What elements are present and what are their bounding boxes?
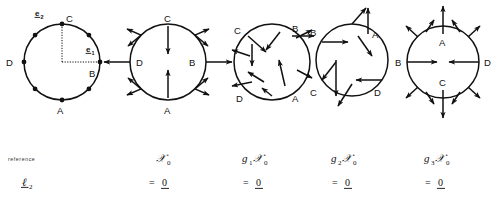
caption-x0-sub: 0 <box>167 159 171 167</box>
panel-g3x0: A B C D <box>395 6 491 118</box>
g1-arrow-A <box>279 60 285 86</box>
caption-row: reference ℓ 2 𝒳 0 = 0 g 1 𝒳 0 = 0 g 2 � <box>8 152 450 191</box>
node-DC <box>33 33 38 38</box>
caption-g1-zero: 0 <box>256 177 261 188</box>
panel-reference: C B A D e 2 e 1 <box>6 9 102 116</box>
caption-g2-var-sub: 0 <box>353 159 357 167</box>
arrow-diag-se-1 <box>195 89 209 95</box>
g1x0-vertex-label-D: D <box>236 93 243 104</box>
figure-container: C B A D e 2 e 1 C B <box>0 0 500 203</box>
caption-g1x0: g 1 𝒳 0 = 0 <box>242 152 268 188</box>
g3x0-vertex-label-D: D <box>484 57 491 68</box>
basis-e1-letter: e <box>86 45 91 54</box>
g1x0-vertex-label-B: B <box>292 23 298 34</box>
g3-arrow-nw1 <box>406 26 418 37</box>
caption-x0: 𝒳 0 = 0 <box>149 152 171 188</box>
caption-g2-letter: g <box>331 152 337 164</box>
g2-arrow-C2 <box>338 84 352 106</box>
caption-g2-zero: 0 <box>345 177 350 188</box>
basis-e2-sub: 2 <box>41 14 44 20</box>
g2-arrow-inner2 <box>322 62 336 80</box>
g2x0-vertex-label-D: D <box>374 87 381 98</box>
caption-reference: reference ℓ 2 <box>8 156 35 191</box>
g3-arrow-sw2 <box>426 92 434 104</box>
g2x0-vertex-label-C: C <box>310 87 317 98</box>
g3-arrow-sw1 <box>406 87 418 98</box>
arrow-diag-nw-1 <box>127 29 141 35</box>
panel-x0: C B A D <box>104 13 232 116</box>
g1x0-vertex-label-C: C <box>234 25 241 36</box>
basis-label-e1: e 1 <box>86 45 95 56</box>
caption-g1-letter: g <box>242 152 248 164</box>
g2-arrow-inner1 <box>358 36 372 56</box>
x0-vertex-label-D: D <box>136 57 143 68</box>
g1x0-vertex-label-A: A <box>292 93 299 104</box>
g3-arrow-se2 <box>452 92 460 104</box>
basis-e2-letter: e <box>35 9 40 18</box>
symmetry-diagram: C B A D e 2 e 1 C B <box>0 0 500 203</box>
g1-arrow-2 <box>266 32 280 50</box>
basis-label-e2: e 2 <box>35 9 44 20</box>
caption-g3x0: g 3 𝒳 0 = 0 <box>424 152 450 188</box>
caption-g3-equals: = <box>425 177 431 188</box>
g2x0-vertex-label-B: B <box>310 27 316 38</box>
g1-arrow-D1 <box>248 72 264 82</box>
g3x0-vertex-label-A: A <box>439 37 446 48</box>
caption-x0-zero: 0 <box>162 177 167 188</box>
caption-reference-word: reference <box>8 156 35 162</box>
x0-vertex-label-C: C <box>164 13 171 24</box>
caption-g2x0: g 2 𝒳 0 = 0 <box>331 152 357 188</box>
caption-g3-letter: g <box>424 152 430 164</box>
node-C <box>60 22 65 27</box>
panel-g1x0: C B D A <box>232 23 314 104</box>
basis-e1-sub: 1 <box>92 50 95 56</box>
g3-arrow-ne1 <box>468 26 480 37</box>
caption-g3-var-sub: 0 <box>446 159 450 167</box>
node-A <box>60 98 65 103</box>
node-CB <box>87 33 92 38</box>
g3x0-vertex-label-B: B <box>395 57 401 68</box>
node-BA <box>87 87 92 92</box>
caption-x0-equals: = <box>149 177 155 188</box>
caption-ell-sub: 2 <box>29 183 33 191</box>
x0-vertex-label-A: A <box>164 105 171 116</box>
caption-g1-var-sub: 0 <box>264 159 268 167</box>
x0-vertex-label-B: B <box>189 57 195 68</box>
caption-g3-zero: 0 <box>438 177 443 188</box>
vertex-label-C: C <box>66 13 73 24</box>
g1-arrow-bottom <box>262 88 272 96</box>
caption-ell: ℓ <box>22 176 27 188</box>
g3x0-vertex-label-C: C <box>439 77 446 88</box>
g1-arrow-A2 <box>297 70 312 78</box>
node-D <box>22 60 27 65</box>
vertex-label-D: D <box>6 57 13 68</box>
node-AD <box>33 87 38 92</box>
panel-g2x0: B A C D <box>310 8 388 106</box>
arrow-diag-ne-1 <box>195 29 209 35</box>
caption-g1-equals: = <box>243 177 249 188</box>
g2-arrow-A2 <box>352 8 366 24</box>
g2x0-vertex-label-A: A <box>372 29 379 40</box>
arrow-diag-sw-1 <box>127 89 141 95</box>
g3-arrow-se1 <box>468 87 480 98</box>
node-B <box>98 60 103 65</box>
g3-arrow-ne2 <box>452 20 460 32</box>
vertex-label-A: A <box>57 105 64 116</box>
g1-arrow-1 <box>248 36 266 52</box>
vertex-label-B: B <box>89 68 95 79</box>
caption-g2-equals: = <box>332 177 338 188</box>
g3-arrow-nw2 <box>426 20 434 32</box>
